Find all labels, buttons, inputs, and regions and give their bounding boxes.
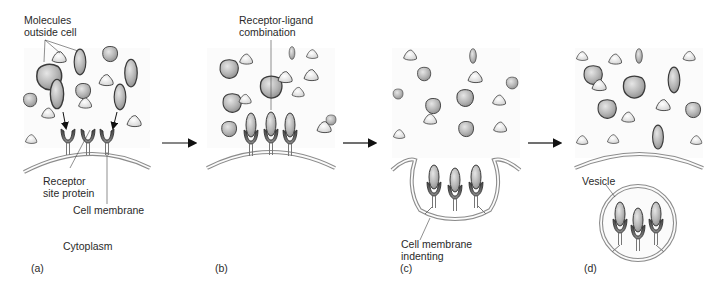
panel-label-b: (b) xyxy=(215,262,228,274)
label-molecules-outside-cell: Molecules outside cell xyxy=(24,14,77,38)
label-receptor-ligand-combination: Receptor-ligand combination xyxy=(239,14,313,38)
panel-c xyxy=(392,48,520,240)
label-cell-membrane-indenting: Cell membrane indenting xyxy=(401,238,472,262)
label-receptor-site-protein: Receptor site protein xyxy=(43,175,94,199)
panel-label-a: (a) xyxy=(31,262,44,274)
panel-label-c: (c) xyxy=(400,262,412,274)
label-cytoplasm: Cytoplasm xyxy=(63,240,113,252)
panel-label-d: (d) xyxy=(584,262,597,274)
panel-d xyxy=(575,48,703,260)
label-vesicle: Vesicle xyxy=(582,175,615,187)
panel-b xyxy=(207,40,336,168)
label-cell-membrane: Cell membrane xyxy=(73,204,144,216)
